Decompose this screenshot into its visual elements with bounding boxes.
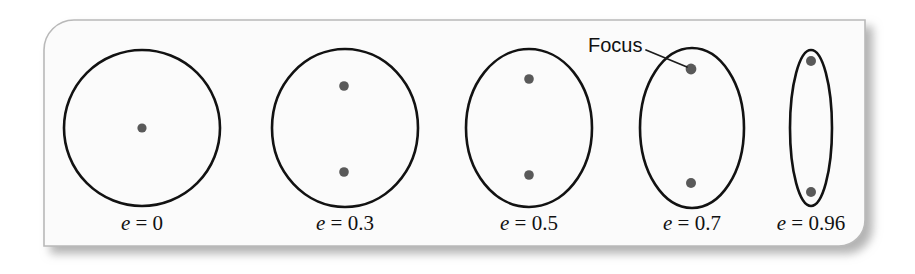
focus-point <box>524 170 534 180</box>
focus-point <box>524 74 534 84</box>
eccentricity-symbol: e <box>777 211 786 235</box>
eccentricity-value: = 0.96 <box>786 211 845 235</box>
focus-point <box>339 167 349 177</box>
eccentricity-label: e = 0 <box>121 211 163 235</box>
eccentricity-symbol: e <box>500 211 509 235</box>
focus-point <box>686 64 697 75</box>
eccentricity-value: = 0.5 <box>509 211 558 235</box>
eccentricity-label: e = 0.3 <box>316 211 374 235</box>
eccentricity-value: = 0.3 <box>325 211 374 235</box>
figure-root: e = 0e = 0.3e = 0.5e = 0.7e = 0.96 Focus <box>0 0 915 274</box>
eccentricity-label: e = 0.5 <box>500 211 558 235</box>
focus-point <box>686 178 696 188</box>
focus-label: Focus <box>588 34 642 56</box>
eccentricity-symbol: e <box>316 211 325 235</box>
focus-point <box>137 123 146 132</box>
focus-point <box>806 187 816 197</box>
eccentricity-value: = 0 <box>130 211 163 235</box>
eccentricity-label: e = 0.7 <box>663 211 721 235</box>
eccentricity-symbol: e <box>121 211 130 235</box>
eccentricity-value: = 0.7 <box>672 211 721 235</box>
eccentricity-symbol: e <box>663 211 672 235</box>
focus-point <box>339 81 349 91</box>
focus-point <box>806 56 816 66</box>
eccentricity-label: e = 0.96 <box>777 211 845 235</box>
eccentricity-diagram-canvas: e = 0e = 0.3e = 0.5e = 0.7e = 0.96 Focus <box>0 0 915 274</box>
